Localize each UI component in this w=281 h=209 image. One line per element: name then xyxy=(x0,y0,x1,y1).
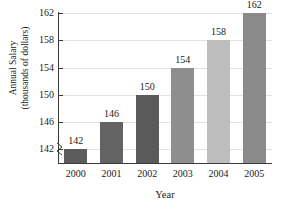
y-axis-tick-label: 142 xyxy=(12,144,54,154)
bars-layer: 142146150154158162 xyxy=(58,12,272,164)
x-axis-tick-label: 2004 xyxy=(199,169,239,179)
bar xyxy=(100,122,123,163)
x-axis-tick-label: 2005 xyxy=(234,169,274,179)
axis-break-icon xyxy=(54,141,66,157)
bar-value-label: 158 xyxy=(199,27,239,37)
bar-value-label: 146 xyxy=(92,109,132,119)
plot-area: 142146150154158162 xyxy=(58,12,272,164)
y-axis-tick-label: 154 xyxy=(12,63,54,73)
x-axis-tick-label: 2000 xyxy=(56,169,96,179)
x-axis-title: Year xyxy=(58,189,272,200)
x-axis-tick-label: 2001 xyxy=(92,169,132,179)
y-axis-tick-label: 150 xyxy=(12,90,54,100)
bar xyxy=(243,13,266,163)
x-axis-tick-label: 2003 xyxy=(163,169,203,179)
y-axis-tick-label: 158 xyxy=(12,35,54,45)
bar-value-label: 162 xyxy=(234,0,274,10)
y-axis-tick-label: 146 xyxy=(12,117,54,127)
y-axis-tick-label: 162 xyxy=(12,8,54,18)
bar xyxy=(171,68,194,163)
bar-value-label: 154 xyxy=(163,55,203,65)
bar-value-label: 150 xyxy=(127,82,167,92)
bar xyxy=(64,149,87,163)
bar xyxy=(136,95,159,163)
bar xyxy=(207,40,230,163)
bar-chart: Annual Salary (thousands of dollars) 142… xyxy=(0,0,281,209)
x-axis-tick-label: 2002 xyxy=(127,169,167,179)
